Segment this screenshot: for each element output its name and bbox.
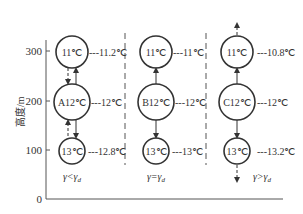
- svg-text:11℃: 11℃: [146, 47, 167, 58]
- column-a: 11℃ ---11.2℃ A12℃ ---12℃ 13℃ ---12.8℃ γ<…: [54, 36, 127, 184]
- ytick-300: 300: [26, 45, 43, 57]
- svg-text:C12℃: C12℃: [223, 97, 251, 108]
- svg-text:---13℃: ---13℃: [172, 146, 203, 157]
- svg-text:---12℃: ---12℃: [91, 97, 122, 108]
- y-axis-label: 高度/m: [14, 96, 26, 127]
- ytick-200: 200: [26, 95, 43, 107]
- svg-text:13℃: 13℃: [62, 146, 83, 157]
- svg-text:---11℃: ---11℃: [173, 47, 204, 58]
- svg-text:11℃: 11℃: [62, 47, 83, 58]
- svg-text:B12℃: B12℃: [142, 97, 170, 108]
- column-c: 11℃ ---10.8℃ C12℃ ---12℃ 13℃ ---13.2℃ γ>…: [219, 25, 296, 184]
- ytick-100: 100: [26, 144, 43, 156]
- svg-text:---12℃: ---12℃: [257, 97, 288, 108]
- svg-text:γ>γd: γ>γd: [253, 171, 272, 184]
- svg-text:11℃: 11℃: [227, 47, 248, 58]
- svg-text:γ<γd: γ<γd: [63, 171, 82, 184]
- svg-text:13℃: 13℃: [227, 146, 248, 157]
- svg-text:---12.8℃: ---12.8℃: [88, 146, 127, 157]
- svg-text:A12℃: A12℃: [58, 97, 86, 108]
- svg-text:---11.2℃: ---11.2℃: [89, 47, 127, 58]
- svg-text:---13.2℃: ---13.2℃: [257, 146, 296, 157]
- ytick-0: 0: [37, 193, 43, 205]
- svg-text:13℃: 13℃: [146, 146, 167, 157]
- svg-text:---10.8℃: ---10.8℃: [257, 47, 296, 58]
- svg-text:---12℃: ---12℃: [175, 97, 206, 108]
- column-b: 11℃ ---11℃ B12℃ ---12℃ 13℃ ---13℃ γ=γd: [138, 36, 206, 184]
- svg-text:γ=γd: γ=γd: [147, 171, 166, 184]
- stability-diagram: 300 200 100 0 高度/m 11℃ ---11.2℃ A12℃ ---…: [0, 0, 303, 214]
